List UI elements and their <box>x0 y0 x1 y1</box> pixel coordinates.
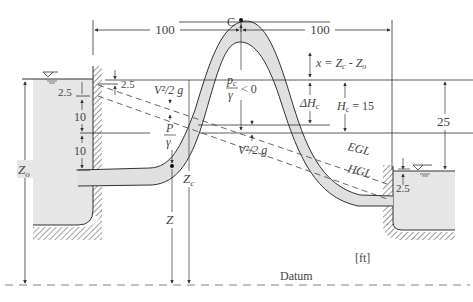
summit-pressure-num: pc <box>226 73 237 88</box>
z-label: Z <box>166 212 174 227</box>
dim-horizontal-right: 100 <box>310 22 330 37</box>
summit-pressure-den: γ <box>228 88 233 102</box>
dim-horizontal-left: 100 <box>155 22 175 37</box>
pressure-head-P: P <box>165 121 174 135</box>
x-expression: x = Zc - Zo <box>315 56 366 71</box>
siphon-diagram: 100 100 C Zo 2.5 10 10 2.5 V²/2 g P γ Z … <box>0 0 473 302</box>
dim-left-upper-gap: 2.5 <box>121 78 135 90</box>
right-reservoir <box>383 165 455 240</box>
summit-pressure-cond: < 0 <box>241 82 257 96</box>
summit-label: C <box>227 15 235 29</box>
egl-label: EGL <box>345 139 372 158</box>
dim-left-drop-2: 10 <box>74 144 86 158</box>
hgl-label: HGL <box>345 161 373 181</box>
units-label: [ft] <box>355 251 370 265</box>
dim-level-difference: 25 <box>437 114 450 129</box>
velocity-head-right: V²/2 g <box>238 143 267 157</box>
hc-label: Hc = 15 <box>336 99 374 114</box>
dim-left-top-gap: 2.5 <box>58 86 72 98</box>
dim-right-submergence: 2.5 <box>396 182 410 194</box>
summit-point <box>239 18 243 22</box>
velocity-head-left: V²/2 g <box>154 83 183 97</box>
datum-label: Datum <box>280 269 313 283</box>
pressure-head-gamma: γ <box>166 135 171 149</box>
left-wall-hatch <box>93 66 102 216</box>
dim-left-drop-1: 10 <box>74 110 86 124</box>
